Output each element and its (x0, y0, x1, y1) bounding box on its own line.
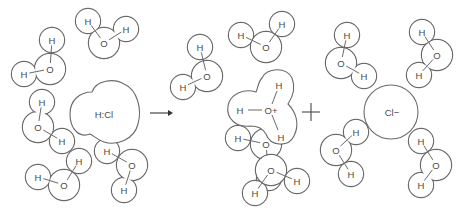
water-molecule: OHH (406, 19, 452, 87)
hydrogen-atom: H (121, 185, 128, 196)
oxygen-atom: O (262, 139, 269, 150)
water-molecule: OHH (408, 128, 451, 197)
water-molecule: OHH (242, 154, 309, 205)
oxygen-atom: O (128, 160, 135, 171)
hydrogen-atom: H (180, 82, 187, 93)
water-electron-cloud (320, 119, 368, 186)
oxygen-atom: O (203, 71, 210, 82)
hydronium-oxygen-label: O+ (265, 105, 278, 116)
hydrogen-atom: H (76, 156, 83, 167)
water-molecule: OHH (22, 89, 74, 153)
hydrogen-atom: H (85, 16, 92, 27)
oxygen-atom: O (432, 160, 439, 171)
hydrogen-atom: H (278, 132, 285, 143)
hydrogen-atom: H (361, 71, 368, 82)
oxygen-atom: O (433, 50, 440, 61)
hydrogen-atom: H (59, 136, 66, 147)
oxygen-atom: O (34, 122, 41, 133)
oxygen-atom: O (262, 42, 269, 53)
water-molecule: OHH (228, 11, 294, 62)
oxygen-atom: O (46, 64, 53, 75)
water-electron-cloud (11, 27, 65, 86)
oxygen-atom: O (332, 145, 339, 156)
hcl-dissociation-diagram: OHHOHHOHHOHHOHHOHHOHHOHHOHHOHHOHHOHHOHH … (0, 0, 472, 214)
hydrogen-atom: H (276, 80, 283, 91)
hydrogen-atom: H (252, 188, 259, 199)
hydrogen-atom: H (21, 69, 28, 80)
arrow-head (168, 110, 173, 116)
hydrogen-atom: H (344, 30, 351, 41)
water-molecule: OHH (94, 138, 147, 202)
hydrogen-atom: H (197, 42, 204, 53)
reaction-arrow (150, 110, 173, 116)
oxygen-atom: O (60, 180, 67, 191)
hydrogen-atom: H (238, 30, 245, 41)
hydrogen-atom: H (235, 133, 242, 144)
plus-sign (302, 103, 320, 121)
hydrogen-atom: H (418, 136, 425, 147)
hydrogen-atom: H (418, 180, 425, 191)
hcl-molecule: H:Cl (70, 81, 139, 143)
water-electron-cloud (406, 19, 452, 87)
hydrogen-atom: H (104, 146, 111, 157)
water-molecule: OHH (75, 8, 138, 58)
water-molecule: OHH (320, 119, 368, 186)
water-electron-cloud (325, 22, 376, 88)
hydrogen-atom: H (348, 169, 355, 180)
hydrogen-atom: H (294, 176, 301, 187)
oxygen-atom: O (337, 58, 344, 69)
hydrogen-atom: H (123, 24, 130, 35)
hydrogen-atom: H (35, 172, 42, 183)
chloride-label: Cl− (385, 107, 400, 118)
water-electron-cloud (408, 128, 451, 197)
hydrogen-atom: H (353, 127, 360, 138)
water-molecule: OHH (11, 27, 65, 86)
hydrogen-atom: H (39, 97, 46, 108)
oxygen-atom: O (100, 38, 107, 49)
water-molecule: OHH (170, 34, 222, 99)
hydrogen-atom: H (416, 70, 423, 81)
hcl-label: H:Cl (95, 109, 113, 120)
water-molecule: OHH (25, 148, 91, 200)
hydrogen-atom: H (49, 35, 56, 46)
hydrogen-atom: H (279, 19, 286, 30)
hydrogen-atom: H (237, 105, 244, 116)
water-molecule: OHH (325, 22, 376, 88)
hydrogen-atom: H (419, 27, 426, 38)
oxygen-atom: O (267, 165, 274, 176)
water-electron-cloud (22, 89, 74, 153)
diagram-canvas: OHHOHHOHHOHHOHHOHHOHHOHHOHHOHHOHHOHHOHH … (0, 0, 472, 214)
chloride-ion: Cl− (364, 85, 418, 139)
